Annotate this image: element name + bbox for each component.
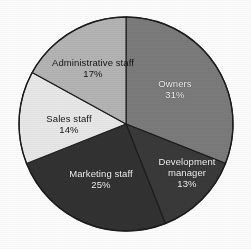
pie-chart-svg	[0, 0, 251, 249]
pie-chart-figure: Owners 31% Development manager 13% Marke…	[0, 0, 251, 249]
